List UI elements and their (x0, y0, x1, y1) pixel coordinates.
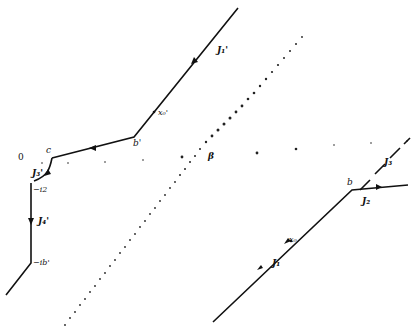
dotted-line (64, 36, 303, 326)
contour-J1-J2 (213, 185, 408, 322)
arrow-icons-left (28, 57, 292, 242)
contour-diagram: 0 c J₃' −i2 J₄' −ib' b' x₀' J₁' β b J₂ J… (0, 0, 414, 336)
J1-label: J₁ (272, 259, 280, 268)
J2-label: J₂ (362, 197, 370, 206)
b-prime-label: b' (133, 139, 141, 148)
J3-label: J₃ (384, 158, 392, 167)
contour-J1-prime (6, 8, 238, 295)
J1-prime-label: J₁' (217, 46, 228, 55)
b-label: b (347, 178, 353, 187)
x0-prime-label: x₀' (158, 109, 168, 117)
point-c-label: c (46, 146, 51, 155)
pole-points (41, 140, 408, 164)
minus-ib-prime-label: −ib' (33, 259, 50, 267)
origin-label: 0 (18, 153, 24, 162)
J3-prime-label: J₃' (32, 169, 43, 178)
beta-label: β (208, 152, 214, 161)
diagram-svg (0, 0, 414, 336)
x0-label: x₀ (289, 236, 297, 244)
J4-prime-label: J₄' (38, 217, 49, 226)
minus-i2-label: −i2 (33, 186, 47, 194)
